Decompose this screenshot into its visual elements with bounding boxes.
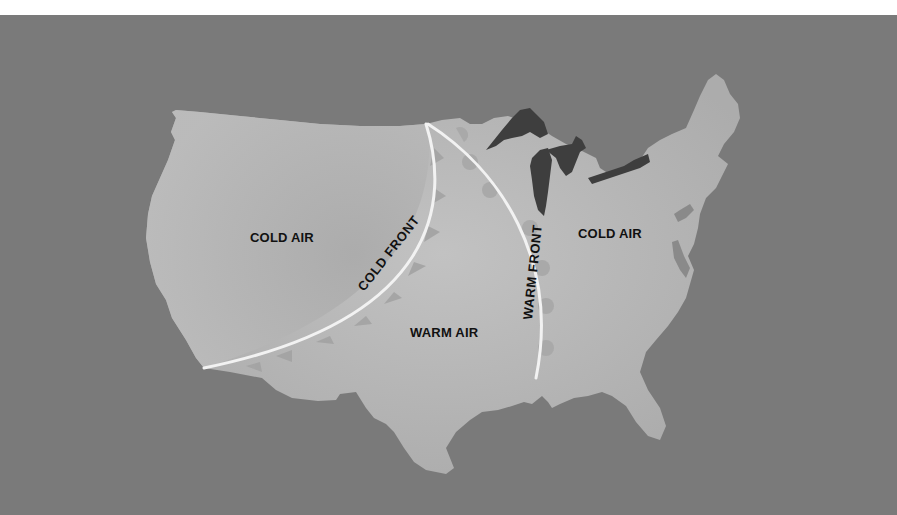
region-label-warm-air: WARM AIR [410,325,479,340]
map-canvas: COLD AIR WARM AIR COLD AIR COLD FRONT WA… [0,0,897,515]
region-label-east-cold-air: COLD AIR [578,226,642,241]
region-label-west-cold-air: COLD AIR [250,230,314,245]
weather-map-figure: COLD AIR WARM AIR COLD AIR COLD FRONT WA… [0,0,897,515]
